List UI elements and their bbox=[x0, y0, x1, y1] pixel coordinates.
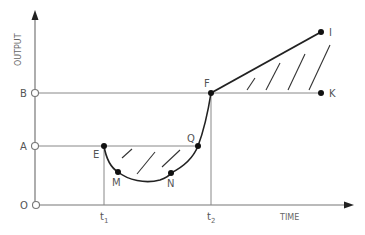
point-k-label: K bbox=[329, 88, 336, 99]
output-curve bbox=[104, 93, 211, 182]
point-q-marker bbox=[195, 143, 201, 149]
level-o-label: O bbox=[20, 200, 28, 211]
point-q-label: Q bbox=[187, 133, 195, 144]
x-axis-arrow-icon bbox=[344, 202, 354, 209]
point-m-marker bbox=[115, 169, 121, 175]
point-e-label: E bbox=[93, 149, 99, 160]
point-k-marker bbox=[318, 90, 324, 96]
point-a-marker bbox=[32, 143, 39, 150]
point-f-marker bbox=[208, 90, 214, 96]
level-a-label: A bbox=[20, 141, 27, 152]
point-o-marker bbox=[33, 202, 40, 209]
y-axis-label: OUTPUT bbox=[14, 33, 23, 66]
point-m-label: M bbox=[112, 177, 121, 188]
point-i-marker bbox=[318, 29, 324, 35]
point-f-label: F bbox=[204, 78, 210, 89]
point-e-marker bbox=[101, 143, 107, 149]
point-i-label: I bbox=[329, 27, 332, 38]
tick-t1-label: t1 bbox=[100, 211, 108, 225]
level-b-label: B bbox=[20, 88, 27, 99]
hatch-upper bbox=[247, 45, 330, 90]
line-f-i bbox=[211, 32, 321, 93]
point-n-label: N bbox=[167, 178, 174, 189]
tick-t2-label: t2 bbox=[207, 211, 215, 225]
x-axis-label: TIME bbox=[279, 213, 299, 222]
point-b-marker bbox=[32, 90, 39, 97]
point-n-marker bbox=[168, 170, 174, 176]
y-axis-arrow-icon bbox=[32, 10, 39, 20]
output-time-diagram: OUTPUT TIME B A O t1 t2 E M N Q F I K bbox=[0, 0, 365, 235]
